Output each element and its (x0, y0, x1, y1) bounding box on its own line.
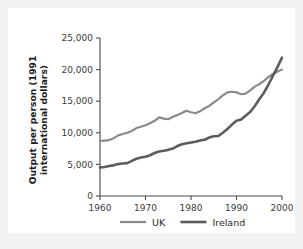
x-tick-label: 1980 (180, 203, 203, 213)
x-tick-label: 1990 (225, 203, 248, 213)
line-chart: Output per person (1991 international do… (8, 8, 295, 233)
y-tick-label: 10,000 (62, 128, 94, 138)
y-tick-label: 0 (87, 191, 93, 201)
y-tick-label: 15,000 (62, 96, 94, 106)
data-series-group (100, 58, 282, 168)
y-axis-ticks: 05,00010,00015,00020,00025,000 (62, 33, 101, 201)
y-tick-label: 25,000 (62, 33, 94, 43)
y-axis-title: Output per person (1991 international do… (27, 56, 49, 185)
y-tick-label: 20,000 (62, 65, 94, 75)
legend-label-uk: UK (152, 217, 166, 228)
y-axis-title-line1: Output per person (1991 (27, 56, 38, 185)
legend-label-ireland: Ireland (212, 217, 245, 228)
axis-frame (100, 38, 282, 196)
chart-figure: Output per person (1991 international do… (0, 0, 303, 249)
x-tick-label: 1970 (134, 203, 157, 213)
x-tick-label: 1960 (89, 203, 112, 213)
y-tick-label: 5,000 (67, 160, 93, 170)
x-tick-label: 2000 (271, 203, 294, 213)
y-axis-title-line2: international dollars) (38, 65, 49, 175)
chart-legend: UKIreland (120, 217, 245, 228)
x-axis-ticks: 19601970198019902000 (89, 196, 294, 213)
chart-panel: Output per person (1991 international do… (8, 8, 295, 233)
